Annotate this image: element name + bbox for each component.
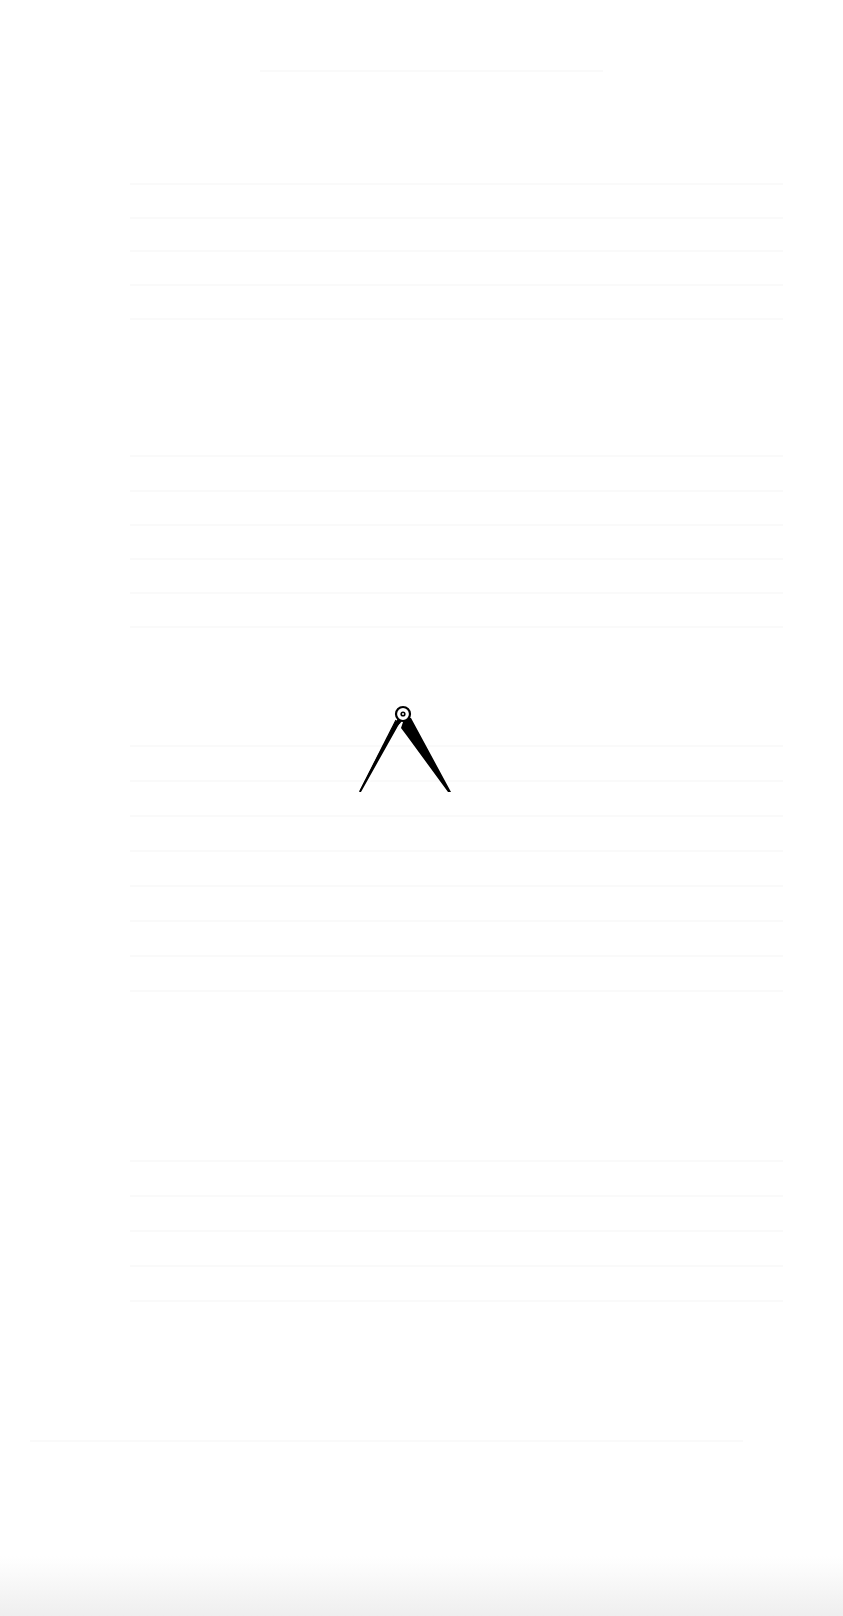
scanned-page xyxy=(0,0,843,1616)
dividers-ornament xyxy=(355,700,455,795)
scan-edge-shadow xyxy=(0,1556,843,1616)
dividers-compass-icon xyxy=(355,700,455,795)
